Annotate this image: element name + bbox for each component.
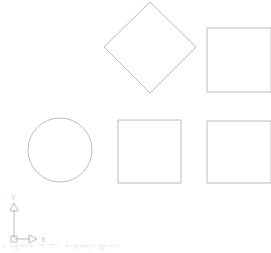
drawing-area[interactable]: Y X xyxy=(0,0,271,253)
drawing-canvas[interactable]: Y X Figure 4-47 Equip grid xyxy=(0,0,271,253)
shape-diamond-rotated-square[interactable] xyxy=(104,2,196,93)
figure-caption: Figure 4-47 Equip grid xyxy=(2,244,119,251)
shape-square-top-right[interactable] xyxy=(207,28,271,92)
ucs-y-arrowhead-icon xyxy=(10,203,18,211)
ucs-coordinate-icon: Y X xyxy=(10,194,46,243)
shape-circle-bottom-left[interactable] xyxy=(28,118,92,182)
shape-square-bottom-right[interactable] xyxy=(207,121,271,183)
ucs-x-axis-label: X xyxy=(41,236,46,243)
ucs-y-axis-label: Y xyxy=(11,194,16,201)
ucs-x-arrowhead-icon xyxy=(29,235,37,243)
shape-square-bottom-middle[interactable] xyxy=(118,120,181,183)
figure-caption-strip: Figure 4-47 Equip grid xyxy=(0,244,271,253)
